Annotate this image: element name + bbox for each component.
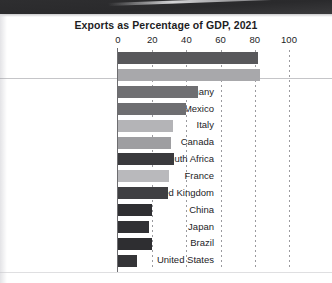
x-tick-100: 100 xyxy=(281,34,297,45)
category-label-mexico: Mexico xyxy=(184,101,214,118)
bar-row: Germany xyxy=(0,84,332,101)
x-tick-20: 20 xyxy=(147,34,158,45)
bar-canada xyxy=(118,137,171,149)
x-tick-0: 0 xyxy=(115,34,120,45)
bar-row: Japan xyxy=(0,219,332,236)
bar-germany xyxy=(118,86,198,98)
scan-top-band xyxy=(0,0,332,14)
bar-row: Italy xyxy=(0,117,332,134)
x-tick-60: 60 xyxy=(215,34,226,45)
bar-japan xyxy=(118,221,149,233)
bar-china xyxy=(118,204,152,216)
x-tick-40: 40 xyxy=(181,34,192,45)
bar-netherlands xyxy=(118,69,260,81)
chart-title: Exports as Percentage of GDP, 2021 xyxy=(0,19,332,31)
category-label-brazil: Brazil xyxy=(190,235,214,252)
bar-france xyxy=(118,170,169,182)
bar-mexico xyxy=(118,103,186,115)
bar-chart: Exports as Percentage of GDP, 2021 02040… xyxy=(0,14,332,283)
category-label-canada: Canada xyxy=(181,134,214,151)
bar-row: South Africa xyxy=(0,151,332,168)
scan-light-streak xyxy=(108,0,278,6)
bar-italy xyxy=(118,120,173,132)
bar-row: Mexico xyxy=(0,101,332,118)
bar-row: United States xyxy=(0,252,332,269)
bar-row: Netherlands xyxy=(0,67,332,84)
bar-united-states xyxy=(118,255,137,267)
bar-brazil xyxy=(118,238,152,250)
category-label-italy: Italy xyxy=(197,117,214,134)
bar-row: France xyxy=(0,168,332,185)
bar-south-africa xyxy=(118,153,174,165)
bar-row: United Kingdom xyxy=(0,185,332,202)
category-label-france: France xyxy=(184,168,214,185)
bar-row: China xyxy=(0,202,332,219)
category-label-china: China xyxy=(189,202,214,219)
category-label-united-states: United States xyxy=(157,252,214,269)
bar-row: Brazil xyxy=(0,235,332,252)
x-tick-80: 80 xyxy=(250,34,261,45)
bar-belgium xyxy=(118,52,258,64)
bar-row: Canada xyxy=(0,134,332,151)
bar-row: Belgium xyxy=(0,50,332,67)
category-label-japan: Japan xyxy=(188,219,214,236)
bar-united-kingdom xyxy=(118,187,168,199)
